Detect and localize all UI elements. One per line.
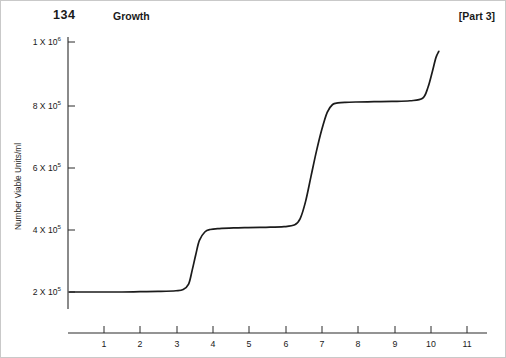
x-tick-label: 11 [462, 339, 471, 349]
x-tick-label: 9 [393, 339, 398, 349]
x-tick-label: 5 [247, 339, 252, 349]
y-tick-mantissa: 2 X 10 [33, 287, 58, 297]
y-tick-exponent: 5 [58, 99, 62, 106]
y-tick-exponent: 5 [58, 285, 62, 292]
page-number: 134 [53, 7, 75, 23]
part-label: [Part 3] [459, 8, 495, 24]
y-tick-exponent: 5 [58, 223, 62, 230]
x-tick-label: 7 [320, 339, 325, 349]
x-tick-label: 4 [211, 339, 216, 349]
y-tick-label: 4 X 105 [33, 223, 62, 235]
y-tick-exponent: 5 [58, 161, 62, 168]
x-tick-label: 1 [102, 339, 107, 349]
x-tick-label: 3 [175, 339, 180, 349]
y-tick-label: 6 X 105 [33, 161, 62, 173]
chapter-title: Growth [113, 8, 150, 24]
y-axis-title-text: Number Viable Units/ml [13, 143, 23, 230]
y-tick-label: 2 X 105 [33, 285, 62, 297]
y-tick-mantissa: 1 X 10 [33, 37, 58, 47]
y-axis-title: Number Viable Units/ml [13, 143, 23, 230]
x-tick-label: 6 [284, 339, 289, 349]
x-axis-ticks: 1 2 3 4 5 6 7 8 9 10 [102, 326, 472, 349]
growth-chart-figure: Number Viable Units/ml 1 X 106 8 X 105 6… [1, 25, 505, 357]
y-tick-label: 8 X 105 [33, 99, 62, 111]
x-tick-label: 10 [426, 339, 436, 349]
y-tick-mantissa: 4 X 10 [33, 225, 58, 235]
running-head: 134 Growth [Part 3] [1, 7, 506, 25]
growth-chart-svg: Number Viable Units/ml 1 X 106 8 X 105 6… [1, 25, 505, 357]
x-tick-label: 8 [356, 339, 361, 349]
y-tick-mantissa: 8 X 10 [33, 101, 58, 111]
y-tick-mantissa: 6 X 10 [33, 163, 58, 173]
y-tick-label: 1 X 106 [33, 35, 62, 47]
page: 134 Growth [Part 3] Number Viable Units/… [0, 0, 506, 358]
y-tick-exponent: 6 [58, 35, 62, 42]
growth-curve [70, 51, 439, 292]
y-axis-ticks: 1 X 106 8 X 105 6 X 105 4 X 105 2 X 105 [33, 35, 75, 297]
x-tick-label: 2 [138, 339, 143, 349]
